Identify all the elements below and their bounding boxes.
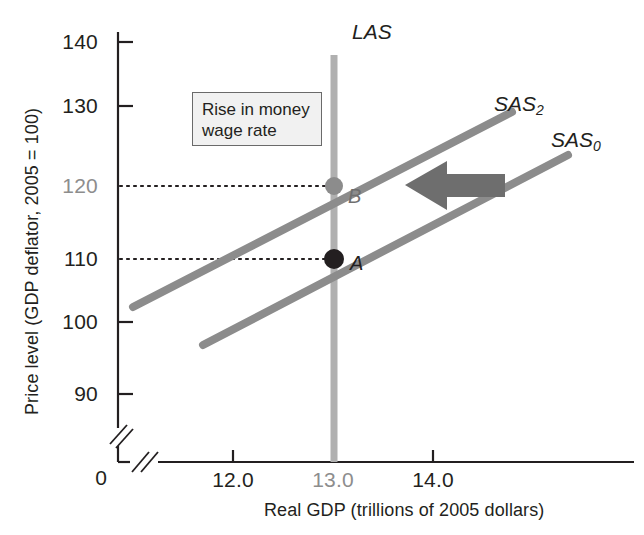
- las-curve-label: LAS: [352, 20, 392, 44]
- sas0-curve-label: SAS0: [551, 128, 601, 152]
- leftward-shift-arrow: [405, 161, 505, 210]
- y-tick-label-100: 100: [36, 310, 98, 334]
- y-tick-label-120: 120: [36, 174, 98, 198]
- x-axis-title: Real GDP (trillions of 2005 dollars): [264, 500, 544, 521]
- x-axis-break-icon: [132, 452, 158, 472]
- sas2-label-subscript: 2: [536, 102, 544, 118]
- annotation-line-1: Rise in money: [202, 100, 310, 119]
- x-tick-label-13: 13.0: [293, 468, 373, 492]
- annotation-text: Rise in money wage rate: [202, 99, 320, 141]
- y-tick-label-130: 130: [36, 94, 98, 118]
- annotation-line-2: wage rate: [202, 121, 277, 140]
- x-tick-label-14: 14.0: [393, 468, 473, 492]
- point-a-label: A: [350, 252, 363, 275]
- sas0-label-subscript: 0: [593, 138, 601, 154]
- sas0-label-base: SAS: [551, 128, 593, 151]
- sas2-label-base: SAS: [494, 92, 536, 115]
- point-b-marker: [325, 177, 343, 195]
- y-axis-title: Price level (GDP deflator, 2005 = 100): [22, 108, 43, 415]
- point-b-label: B: [348, 185, 361, 208]
- y-tick-label-110: 110: [36, 247, 98, 271]
- sas2-curve-label: SAS2: [494, 92, 544, 116]
- y-axis-break-icon: [110, 425, 133, 448]
- as-curve-figure: 140 130 120 110 100 90 0 12.0 13.0 14.0 …: [0, 0, 644, 535]
- point-a-marker: [324, 249, 344, 269]
- y-tick-label-140: 140: [36, 30, 98, 54]
- y-tick-label-90: 90: [36, 382, 98, 406]
- axis-origin-label: 0: [86, 466, 116, 490]
- annotation-box: Rise in money wage rate: [192, 92, 322, 146]
- sas0-curve: [203, 155, 568, 345]
- x-tick-label-12: 12.0: [193, 468, 273, 492]
